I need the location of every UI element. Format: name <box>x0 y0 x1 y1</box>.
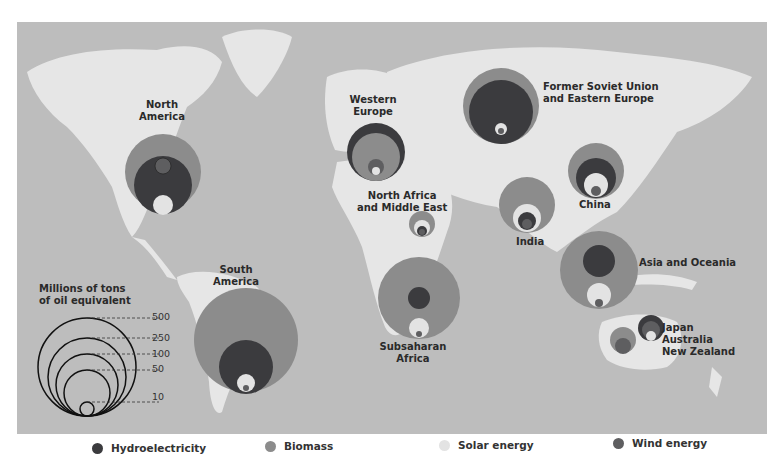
land-central-america <box>132 237 177 280</box>
legend-item-wind: Wind energy <box>613 437 707 449</box>
label-china: China <box>579 199 611 211</box>
energy-legend: Hydroelectricity Biomass Solar energy Wi… <box>0 436 776 464</box>
biomass-swatch-icon <box>265 441 276 452</box>
bubble-wind <box>419 229 425 235</box>
legend-label: Hydroelectricity <box>111 442 206 454</box>
bubble-wind <box>416 331 422 337</box>
bubble-asia-oceania <box>560 231 638 309</box>
bubble-wind-australia <box>615 338 631 354</box>
bubble-solar-japan <box>646 331 656 341</box>
legend-label: Biomass <box>284 440 333 452</box>
bubble-solar <box>372 167 380 175</box>
legend-label: Wind energy <box>632 437 707 449</box>
land-greenland <box>222 30 292 98</box>
bubble-china <box>568 143 624 199</box>
bubble-north-africa-middle-east <box>409 211 435 237</box>
land-new-zealand <box>709 367 722 397</box>
label-north-africa-middle-east: North Africa and Middle East <box>357 190 447 214</box>
bubble-hydroelectricity <box>408 287 430 309</box>
scale-legend-title: Millions of tons of oil equivalent <box>39 283 131 307</box>
label-japan-australia-nz: Japan Australia New Zealand <box>662 322 735 358</box>
hydroelectricity-swatch-icon <box>92 443 103 454</box>
legend-item-solar: Solar energy <box>439 439 534 451</box>
solar-swatch-icon <box>439 440 450 451</box>
label-former-soviet-union: Former Soviet Union and Eastern Europe <box>543 81 659 105</box>
scale-label-100: 100 <box>152 348 170 359</box>
label-subsaharan-africa: Subsaharan Africa <box>380 341 447 365</box>
bubble-wind <box>243 385 249 391</box>
bubble-solar <box>153 195 173 215</box>
scale-label-50: 50 <box>152 363 164 374</box>
label-india: India <box>516 236 544 248</box>
wind-swatch-icon <box>613 438 624 449</box>
legend-item-biomass: Biomass <box>265 440 333 452</box>
land-north-america <box>27 46 222 237</box>
scale-legend-circles <box>38 318 136 416</box>
bubble-wind <box>591 186 601 196</box>
label-asia-oceania: Asia and Oceania <box>639 257 736 269</box>
bubble-hydroelectricity <box>583 245 615 277</box>
scale-circle-50 <box>64 370 110 416</box>
legend-label: Solar energy <box>458 439 534 451</box>
label-western-europe: Western Europe <box>350 94 397 118</box>
land-indonesia <box>627 274 697 290</box>
bubble-wind <box>522 219 532 229</box>
bubble-western-europe <box>347 123 405 181</box>
bubble-subsaharan-africa <box>378 257 460 339</box>
bubble-wind <box>595 299 603 307</box>
scale-circle-10 <box>80 402 94 416</box>
scale-label-500: 500 <box>152 311 170 322</box>
bubble-former-soviet-union <box>463 68 539 144</box>
bubble-wind <box>498 128 504 134</box>
bubble-india <box>499 177 555 233</box>
bubble-wind <box>155 158 171 174</box>
label-south-america: South America <box>213 264 259 288</box>
scale-label-10: 10 <box>152 391 164 402</box>
label-north-america: North America <box>139 99 185 123</box>
scale-label-250: 250 <box>152 332 170 343</box>
legend-item-hydroelectricity: Hydroelectricity <box>92 442 206 454</box>
scale-circle-250 <box>48 338 126 416</box>
